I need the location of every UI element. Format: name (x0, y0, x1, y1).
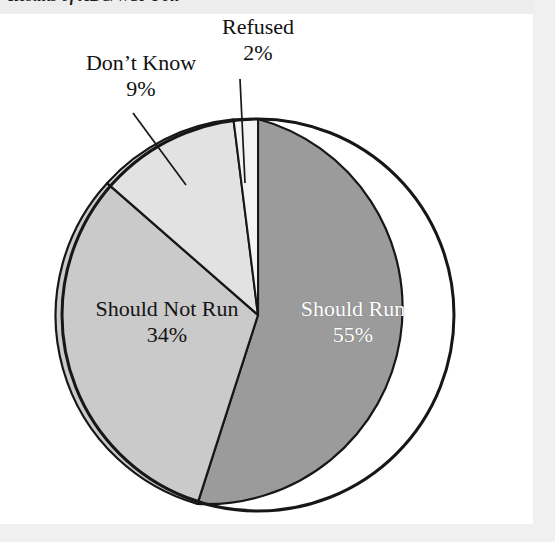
figure-page: Results of ABC/WSJ Poll Don’t Know 9% Re… (0, 0, 555, 542)
callout-refused-label: Refused (222, 14, 294, 39)
slice-label-should-run-percent: 55% (278, 322, 428, 348)
slice-label-should-not-run-text: Should Not Run (95, 296, 238, 321)
callout-dont-know-label: Don’t Know (86, 50, 196, 75)
slice-label-should-not-run-percent: 34% (72, 322, 262, 348)
callout-refused: Refused 2% (196, 14, 320, 66)
callout-refused-percent: 2% (196, 40, 320, 66)
slice-label-should-run: Should Run 55% (278, 296, 428, 349)
slice-label-should-not-run: Should Not Run 34% (72, 296, 262, 349)
callout-dont-know-percent: 9% (56, 76, 226, 102)
slice-label-should-run-text: Should Run (301, 296, 406, 321)
